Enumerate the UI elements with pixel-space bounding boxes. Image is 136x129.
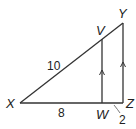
vertex-label-x: X (5, 96, 16, 111)
vertex-label-w: W (96, 107, 110, 122)
measure-xw: 8 (58, 106, 65, 120)
triangle-diagram: X W Z Y V 10 8 2 (0, 0, 136, 129)
vertex-label-v: V (96, 23, 106, 38)
measure-xv: 10 (47, 59, 61, 73)
measure-leader-wz (114, 105, 120, 113)
segment-xy (20, 23, 123, 103)
measure-wz: 2 (119, 113, 126, 127)
vertex-label-y: Y (118, 6, 128, 21)
vertex-label-z: Z (125, 96, 135, 111)
